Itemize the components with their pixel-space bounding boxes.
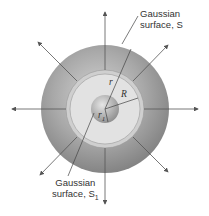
- label-line: surface, S1: [52, 188, 99, 203]
- label-subscript: 1: [95, 194, 99, 201]
- label-line: Gaussian: [52, 177, 99, 188]
- label-gaussian-surface-s1: Gaussian surface, S1: [52, 177, 99, 203]
- gauss-diagram: [0, 0, 209, 216]
- label-gaussian-surface-s: Gaussian surface, S: [140, 8, 183, 30]
- label-R: R: [121, 89, 127, 100]
- label-r: r: [109, 77, 113, 88]
- label-r1: r1: [98, 110, 105, 125]
- label-text: surface, S: [52, 188, 95, 199]
- label-line: surface, S: [140, 19, 183, 30]
- label-line: Gaussian: [140, 8, 183, 19]
- label-subscript: 1: [102, 115, 106, 123]
- pointer-s: [122, 16, 138, 44]
